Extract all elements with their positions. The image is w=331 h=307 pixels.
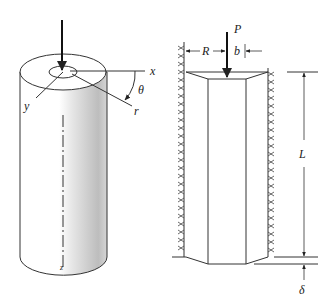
cylinder-figure: x y r θ z [20, 20, 156, 275]
label-x: x [149, 64, 156, 78]
label-delta: δ [299, 283, 305, 297]
label-r: r [134, 104, 139, 118]
right-wall-hatching [268, 72, 274, 252]
label-theta: θ [138, 83, 144, 97]
label-p: P [233, 22, 242, 36]
column-outline [186, 72, 268, 264]
label-r-dim: R [201, 44, 210, 58]
diagram-canvas: x y r θ z P R b [0, 0, 331, 307]
label-l: L [298, 147, 306, 161]
label-b: b [234, 44, 240, 58]
label-y: y [23, 99, 30, 113]
left-wall-hatching [178, 46, 184, 250]
column-figure: P R b L δ [172, 22, 318, 297]
theta-arc [125, 71, 135, 100]
